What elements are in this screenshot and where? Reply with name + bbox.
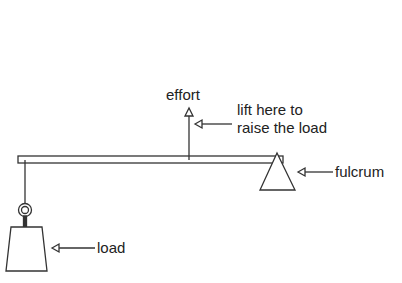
load-weight bbox=[6, 227, 47, 271]
load-arrowhead-icon bbox=[52, 244, 59, 252]
hint-label-line2: raise the load bbox=[237, 119, 327, 136]
fulcrum-label: fulcrum bbox=[335, 163, 384, 180]
lever-beam bbox=[18, 156, 283, 163]
load-label: load bbox=[97, 239, 125, 256]
load-hook-stem bbox=[24, 216, 27, 227]
load-ring bbox=[19, 204, 32, 217]
lever-diagram bbox=[0, 0, 402, 283]
effort-label: effort bbox=[166, 86, 200, 103]
hint-label-line1: lift here to bbox=[237, 101, 303, 118]
lift-here-arrowhead-icon bbox=[195, 120, 202, 128]
load-ring-inner bbox=[22, 207, 29, 214]
effort-arrowhead-icon bbox=[185, 108, 193, 116]
fulcrum-arrowhead-icon bbox=[298, 168, 305, 176]
